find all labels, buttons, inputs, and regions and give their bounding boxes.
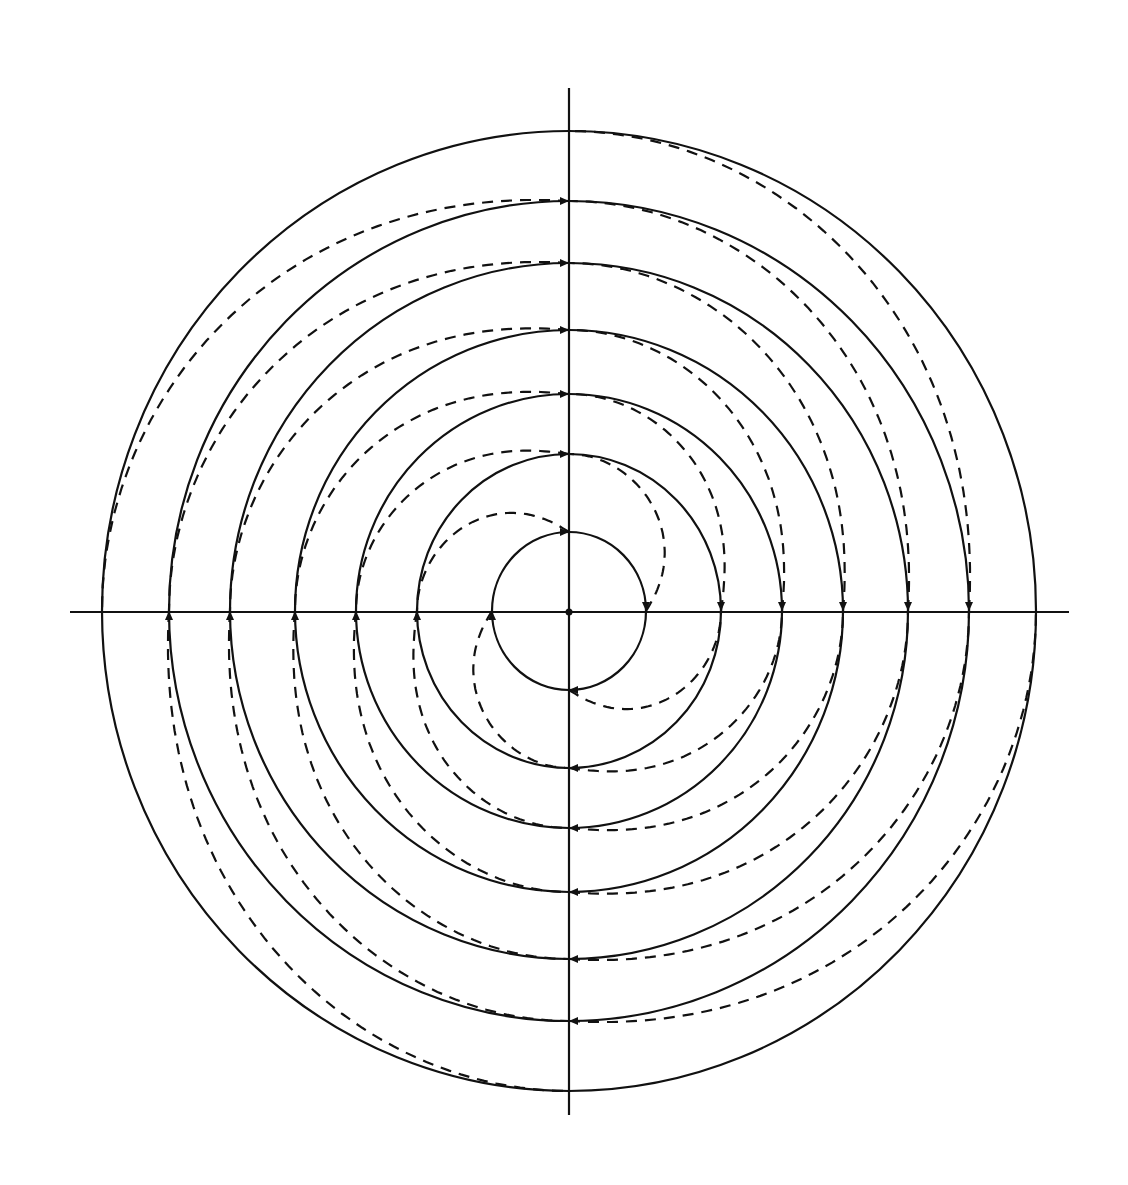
origin-point	[566, 609, 573, 616]
concentric-spiral-diagram	[0, 0, 1128, 1185]
diagram-canvas	[0, 0, 1128, 1185]
